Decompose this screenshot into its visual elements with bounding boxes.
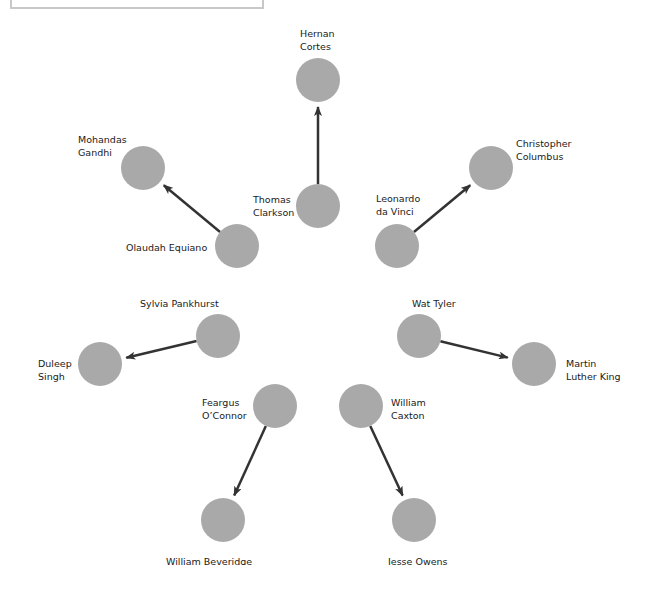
node-owens bbox=[392, 498, 436, 542]
arrow-equiano-to-gandhi bbox=[164, 185, 220, 232]
node-label-tyler: Wat Tyler bbox=[412, 297, 456, 310]
node-gandhi bbox=[121, 146, 165, 190]
node-label-king: Martin Luther King bbox=[566, 357, 621, 383]
arrow-caxton-to-owens bbox=[370, 426, 402, 496]
arrow-davinci-to-columbus bbox=[414, 185, 470, 232]
node-label-clarkson: Thomas Clarkson bbox=[253, 193, 294, 219]
node-davinci bbox=[375, 224, 419, 268]
node-label-cortes: Hernan Cortes bbox=[300, 27, 335, 53]
node-label-caxton: William Caxton bbox=[391, 396, 426, 422]
node-pankhurst bbox=[196, 314, 240, 358]
node-cortes bbox=[296, 58, 340, 102]
node-label-equiano: Olaudah Equiano bbox=[126, 241, 207, 254]
arrow-oconnor-to-beveridge bbox=[234, 426, 266, 495]
node-equiano bbox=[215, 224, 259, 268]
node-label-oconnor: Feargus O’Connor bbox=[202, 396, 247, 422]
node-label-pankhurst: Sylvia Pankhurst bbox=[140, 297, 219, 310]
node-oconnor bbox=[253, 384, 297, 428]
node-label-davinci: Leonardo da Vinci bbox=[376, 192, 420, 218]
node-singh bbox=[78, 342, 122, 386]
node-tyler bbox=[397, 314, 441, 358]
node-label-singh: Duleep Singh bbox=[38, 357, 72, 383]
arrow-pankhurst-to-singh bbox=[126, 341, 196, 358]
node-king bbox=[512, 342, 556, 386]
node-label-columbus: Christopher Columbus bbox=[516, 137, 572, 163]
node-clarkson bbox=[296, 184, 340, 228]
bottom-clip bbox=[0, 565, 660, 598]
arrow-tyler-to-king bbox=[440, 341, 507, 357]
node-beveridge bbox=[201, 498, 245, 542]
node-columbus bbox=[469, 146, 513, 190]
node-label-gandhi: Mohandas Gandhi bbox=[78, 133, 127, 159]
influence-diagram bbox=[0, 0, 660, 598]
node-caxton bbox=[339, 384, 383, 428]
